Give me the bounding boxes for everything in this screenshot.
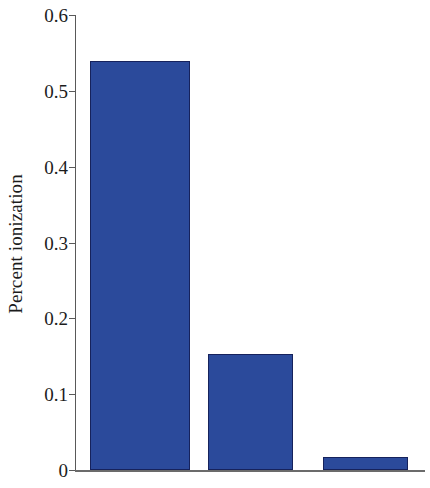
bar — [208, 354, 293, 470]
plot-area — [0, 0, 430, 488]
bar — [90, 61, 190, 471]
bar-chart-figure: Percent ionization 0.60.50.40.30.20.10 — [0, 0, 430, 488]
bar — [323, 457, 408, 470]
